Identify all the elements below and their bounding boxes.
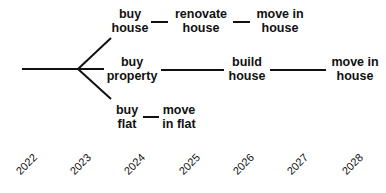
node-label-line2: in flat	[162, 117, 195, 131]
node-buy-property: buy property	[107, 55, 158, 83]
node-label-line2: house	[229, 69, 266, 83]
node-label-line2: house	[331, 69, 378, 83]
node-label-line1: move	[162, 103, 195, 117]
node-label-line1: move in	[256, 7, 303, 21]
node-move-in-flat: move in flat	[162, 103, 195, 131]
node-label-line1: buy	[116, 103, 138, 117]
node-label-line1: move in	[331, 55, 378, 69]
node-label-line2: house	[175, 21, 227, 35]
node-label-line1: buy	[107, 55, 158, 69]
node-label-line1: buy	[112, 7, 149, 21]
node-buy-house: buy house	[112, 7, 149, 35]
node-label-line2: house	[112, 21, 149, 35]
node-label-line2: house	[256, 21, 303, 35]
node-build-house: build house	[229, 55, 266, 83]
node-move-in-house-2: move in house	[331, 55, 378, 83]
node-renovate-house: renovate house	[175, 7, 227, 35]
node-label-line1: build	[229, 55, 266, 69]
node-label-line2: flat	[116, 117, 138, 131]
node-label-line1: renovate	[175, 7, 227, 21]
node-move-in-house-1: move in house	[256, 7, 303, 35]
node-buy-flat: buy flat	[116, 103, 138, 131]
node-label-line2: property	[107, 69, 158, 83]
